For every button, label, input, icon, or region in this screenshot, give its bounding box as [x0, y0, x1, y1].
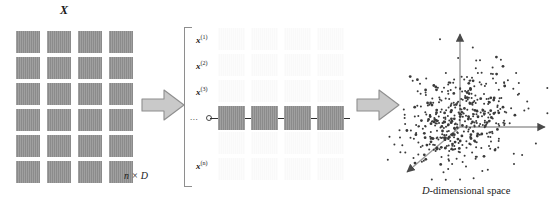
scatter-point: [496, 128, 499, 131]
ghost-cell: [284, 132, 311, 154]
scatter-point: [509, 122, 511, 124]
scatter-point: [440, 111, 442, 113]
scatter-point: [481, 170, 483, 172]
scatter-point: [452, 149, 454, 151]
scatter-point: [457, 132, 459, 134]
scatter-point: [475, 146, 477, 148]
scatter-point: [463, 78, 465, 80]
scatter-point: [471, 102, 473, 104]
matrix-cell: [78, 83, 102, 105]
scatter-point: [443, 112, 446, 115]
matrix-title-label: X: [60, 4, 68, 16]
selected-row-cell[interactable]: [251, 106, 278, 130]
matrix-cell: [47, 161, 71, 183]
scatter-point: [474, 122, 476, 124]
scatter-point: [487, 169, 489, 171]
scatter-point: [417, 115, 419, 117]
scatter-point: [492, 118, 494, 120]
row-label-2: x(2): [196, 60, 208, 71]
scatter-point: [457, 57, 459, 59]
scatter-point: [488, 98, 490, 100]
scatter-point: [497, 111, 500, 114]
scatter-point: [456, 102, 458, 104]
scatter-point: [399, 151, 401, 153]
scatter-point: [457, 138, 460, 141]
ghost-cell: [251, 158, 278, 180]
scatter-point: [469, 102, 471, 104]
ghost-cell: [251, 80, 278, 102]
scatter-point: [498, 140, 500, 142]
selected-row[interactable]: [218, 106, 344, 130]
scatter-point: [498, 89, 500, 91]
scatter-point: [399, 136, 401, 138]
scatter-point: [468, 117, 470, 119]
scatter-point: [434, 118, 437, 121]
selected-row-cell[interactable]: [284, 106, 311, 130]
matrix-cell: [16, 57, 40, 79]
scatter-point: [417, 142, 419, 144]
ghost-cell: [284, 80, 311, 102]
scatter-point: [420, 106, 422, 108]
scatter-point: [448, 98, 450, 100]
scatter-point: [476, 141, 478, 143]
scatter-point: [489, 148, 491, 150]
scatter-point: [452, 92, 455, 95]
scatter-point: [444, 117, 446, 119]
scatter-point: [422, 145, 424, 147]
scatter-point: [499, 108, 501, 110]
scatter-point: [415, 132, 417, 134]
figure-root: X n × D x(1) x(2) x(3) ... x(n): [0, 0, 560, 210]
scatter-point: [437, 139, 439, 141]
scatter-point: [467, 82, 470, 85]
scatter-point: [435, 150, 437, 152]
scatter-point: [453, 136, 455, 138]
scatter-point: [430, 140, 433, 143]
scatter-point: [399, 129, 401, 131]
scatter-point: [483, 93, 485, 95]
matrix-cell: [78, 57, 102, 79]
scatter-point: [479, 97, 482, 100]
scatter-point: [441, 91, 443, 93]
scatter-point: [472, 131, 474, 133]
scatter-point: [480, 84, 482, 86]
scatter-points: [387, 38, 549, 181]
scatter-point: [490, 131, 492, 133]
row-label-3-sup: (3): [201, 86, 208, 92]
scatter-point: [528, 108, 530, 110]
matrix-cell: [78, 31, 102, 53]
scatter-point: [435, 113, 437, 115]
scatter-point: [417, 154, 419, 156]
matrix-cell: [16, 135, 40, 157]
scatter-point: [482, 109, 485, 112]
ghost-cell: [284, 28, 311, 50]
scatter-point: [415, 124, 417, 126]
scatter-point: [489, 109, 492, 112]
scatter-point: [454, 141, 457, 144]
row-label-2-sup: (2): [201, 60, 208, 66]
scatter-point: [466, 76, 468, 78]
scatter-point: [426, 102, 429, 105]
selected-row-cell[interactable]: [317, 106, 344, 130]
scatter-point: [409, 75, 412, 78]
scatter-point: [448, 137, 450, 139]
scatter-point: [444, 138, 447, 141]
ghost-grid: [218, 28, 344, 180]
selected-row-cell[interactable]: [218, 106, 245, 130]
scatter-point: [434, 144, 436, 146]
scatter-point: [450, 89, 452, 91]
scatter-point: [476, 99, 478, 101]
row-label-3: x(3): [196, 86, 208, 97]
scatter-point: [489, 136, 491, 138]
scatter-point: [450, 117, 453, 120]
scatter-point: [404, 114, 406, 116]
scatter-point: [486, 133, 488, 135]
scatter-point: [442, 137, 444, 139]
scatter-point: [459, 88, 461, 90]
scatter-point: [466, 125, 468, 127]
ghost-cell: [284, 158, 311, 180]
scatter-point: [512, 88, 514, 90]
scatter-point: [492, 73, 494, 75]
scatter-point: [475, 102, 477, 104]
scatter-point: [495, 82, 497, 84]
scatter-point: [465, 115, 467, 117]
